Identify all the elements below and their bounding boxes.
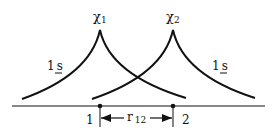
atom-1-label: 1	[86, 113, 94, 127]
atom-2-dot	[171, 104, 176, 109]
atom-1-dot	[98, 104, 103, 109]
orbital-2-curve	[92, 30, 255, 99]
arrow-left-icon	[101, 114, 111, 122]
distance-label: r12	[127, 110, 146, 125]
orbital-2-label: χ2	[166, 9, 180, 25]
orbital-2-type-label: 1s	[212, 59, 228, 73]
orbital-1-label: χ1	[93, 9, 107, 25]
orbital-1-type-label: 1s	[47, 59, 63, 73]
orbital-overlap-diagram: χ1 χ2 1s 1s 1 2 r12	[0, 0, 279, 133]
arrow-right-icon	[162, 114, 172, 122]
atom-2-label: 2	[182, 113, 190, 127]
